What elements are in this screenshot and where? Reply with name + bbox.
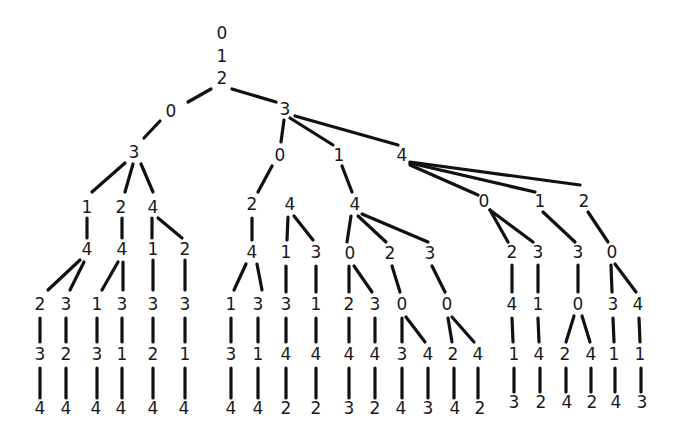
tree-node-a342: 2 — [180, 239, 191, 259]
tree-node-b1430: 0 — [442, 294, 453, 314]
tree-node-a32: 2 — [116, 197, 127, 217]
tree-node-a341: 1 — [148, 239, 159, 259]
tree-node-b1403: 3 — [370, 294, 381, 314]
tree-node-b140: 0 — [345, 243, 356, 263]
tree-node-b0: 0 — [275, 145, 286, 165]
tree-edge — [141, 164, 153, 192]
tree-node-l4c: 4 — [116, 398, 127, 418]
tree-edge — [613, 318, 614, 342]
tree-node-l1b: 3 — [35, 344, 46, 364]
tree-node-l2: 3 — [61, 294, 72, 314]
tree-node-c4314: 4 — [311, 344, 322, 364]
tree-node-b4203: 3 — [608, 294, 619, 314]
tree-svg: 0120312444122313333231214444443014241331… — [0, 0, 676, 434]
tree-node-b0243: 3 — [253, 294, 264, 314]
tree-node-b413024: 4 — [562, 392, 573, 412]
tree-node-b402413: 3 — [509, 392, 520, 412]
tree-node-b420314: 4 — [611, 392, 622, 412]
tree-edge — [92, 163, 125, 192]
tree-edge — [582, 316, 590, 342]
tree-edge — [234, 264, 246, 290]
tree-node-b140342: 2 — [370, 398, 381, 418]
tree-edge — [144, 121, 160, 138]
tree-edge — [490, 210, 533, 242]
tree-node-b402: 2 — [507, 242, 518, 262]
tree-node-n0: 0 — [217, 23, 228, 43]
tree-edge — [452, 317, 474, 342]
tree-edge — [294, 216, 313, 240]
tree-edge — [125, 164, 133, 192]
tree-edge — [392, 266, 400, 292]
edge-layer — [40, 89, 641, 398]
tree-node-b4031: 1 — [533, 294, 544, 314]
tree-node-l1c: 4 — [35, 398, 46, 418]
tree-node-n2: 2 — [217, 68, 228, 88]
tree-node-c41342: 2 — [281, 398, 292, 418]
tree-node-n1: 1 — [217, 46, 228, 66]
tree-node-b1420: 0 — [397, 294, 408, 314]
tree-node-b4130: 0 — [573, 294, 584, 314]
tree-node-b4: 4 — [397, 145, 408, 165]
tree-edge — [102, 262, 118, 290]
tree-node-b0241: 1 — [226, 294, 237, 314]
tree-node-l3c: 4 — [91, 398, 102, 418]
tree-node-l5: 3 — [148, 294, 159, 314]
tree-node-b142034: 4 — [396, 398, 407, 418]
tree-node-b42031: 1 — [609, 344, 620, 364]
tree-node-b41302: 2 — [560, 344, 571, 364]
tree-node-b4204: 4 — [633, 294, 644, 314]
tree-node-b14: 4 — [350, 194, 361, 214]
tree-node-b14302: 2 — [448, 344, 459, 364]
tree-edge — [538, 318, 539, 342]
tree-node-a0: 0 — [166, 101, 177, 121]
tree-edge — [639, 318, 640, 342]
tree-edge — [354, 266, 372, 292]
tree-edge — [512, 318, 513, 342]
tree-node-l4b: 1 — [117, 344, 128, 364]
tree-edge — [188, 89, 211, 102]
tree-node-b3: 3 — [280, 99, 291, 119]
tree-edge — [588, 212, 608, 242]
tree-edge — [281, 120, 284, 142]
tree-edge — [432, 266, 445, 292]
tree-node-l6b: 1 — [180, 344, 191, 364]
tree-node-b1402: 2 — [344, 294, 355, 314]
tree-node-l4: 3 — [117, 294, 128, 314]
tree-edge — [615, 264, 636, 292]
tree-node-b41: 1 — [535, 191, 546, 211]
tree-node-b40314: 4 — [534, 344, 545, 364]
tree-edge — [48, 260, 80, 290]
tree-node-b420413: 3 — [637, 392, 648, 412]
tree-node-l2b: 2 — [61, 344, 72, 364]
tree-node-c43: 3 — [311, 242, 322, 262]
tree-node-c4134: 4 — [281, 344, 292, 364]
tree-node-b143042: 2 — [475, 398, 486, 418]
tree-node-b140243: 3 — [344, 398, 355, 418]
tree-node-b420: 0 — [607, 242, 618, 262]
tree-node-b403142: 2 — [536, 392, 547, 412]
tree-diagram: 0120312444122313333231214444443014241331… — [0, 0, 676, 434]
tree-node-a314: 4 — [82, 239, 93, 259]
tree-node-b14304: 4 — [473, 344, 484, 364]
tree-node-b40: 0 — [479, 191, 490, 211]
tree-node-l1: 2 — [35, 294, 46, 314]
tree-edge — [347, 216, 351, 242]
tree-node-b14204: 4 — [423, 344, 434, 364]
tree-node-b02413: 3 — [226, 344, 237, 364]
tree-node-l3: 1 — [92, 294, 103, 314]
tree-node-b024134: 4 — [226, 398, 237, 418]
tree-node-b403: 3 — [533, 242, 544, 262]
tree-node-b41304: 4 — [586, 344, 597, 364]
tree-edge — [566, 316, 574, 342]
tree-node-b14024: 4 — [344, 344, 355, 364]
tree-node-l6: 3 — [180, 294, 191, 314]
tree-node-b143024: 4 — [450, 398, 461, 418]
tree-edge — [611, 265, 612, 292]
tree-node-c431: 1 — [311, 294, 322, 314]
tree-edge — [232, 89, 276, 102]
tree-node-a3: 3 — [129, 142, 140, 162]
tree-edge — [158, 218, 182, 238]
tree-node-c43142: 2 — [311, 398, 322, 418]
tree-node-b14034: 4 — [370, 344, 381, 364]
tree-node-b02: 2 — [247, 194, 258, 214]
